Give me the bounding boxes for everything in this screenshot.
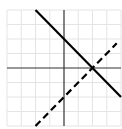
coordinate-plane bbox=[0, 0, 122, 129]
dashed-line bbox=[36, 43, 117, 126]
axes bbox=[7, 10, 121, 126]
